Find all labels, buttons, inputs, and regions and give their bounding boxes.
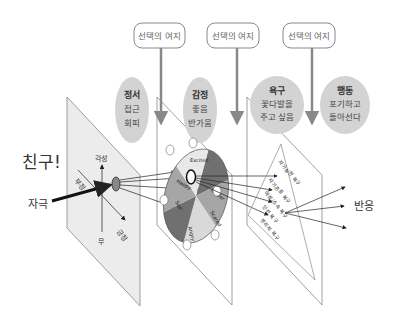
bubble-desire: 욕구 꽃다발을 주고 싶음	[250, 76, 304, 134]
svg-text:접근: 접근	[124, 104, 140, 114]
stimulus-label: 자극	[28, 198, 48, 211]
svg-text:정서: 정서	[124, 89, 140, 100]
svg-text:반가움: 반가움	[188, 118, 212, 128]
emotion-point	[187, 170, 196, 184]
emotion-process-diagram: 선택의 여지 선택의 여지 선택의 여지 정서 접근 회피 감정 좋음 반가움 …	[0, 0, 396, 325]
svg-text:좋음: 좋음	[192, 104, 208, 114]
svg-text:꽃다발을: 꽃다발을	[261, 99, 293, 109]
svg-text:주고 싶음: 주고 싶음	[260, 112, 295, 122]
svg-text:감정: 감정	[192, 89, 208, 100]
svg-text:선택의 여지: 선택의 여지	[212, 31, 255, 41]
bubble-emotion: 감정 좋음 반가움	[183, 77, 217, 143]
response-label: 반응	[354, 200, 374, 213]
svg-text:돌아선다: 돌아선다	[329, 112, 361, 122]
svg-text:무: 무	[98, 238, 105, 246]
svg-text:선택의 여지: 선택의 여지	[288, 31, 331, 41]
friend-label: 친구!	[22, 152, 61, 172]
bubble-behavior: 행동 포기하고 돌아선다	[320, 76, 370, 134]
svg-text:Excited: Excited	[190, 157, 208, 163]
svg-text:선택의 여지: 선택의 여지	[138, 31, 181, 41]
affect-point	[112, 177, 120, 191]
svg-text:각성: 각성	[95, 154, 107, 163]
svg-text:행동: 행동	[337, 85, 353, 96]
svg-text:포기하고: 포기하고	[329, 99, 361, 109]
svg-text:욕구: 욕구	[269, 86, 285, 96]
bubble-affect: 정서 접근 회피	[115, 77, 149, 143]
svg-text:회피: 회피	[124, 118, 140, 128]
